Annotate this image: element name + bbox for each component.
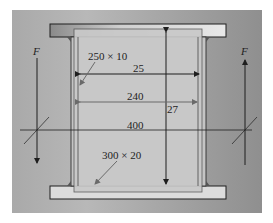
label-dim-400: 400 bbox=[127, 119, 144, 131]
label-300x20: 300 × 20 bbox=[102, 149, 142, 161]
label-dim-25: 25 bbox=[133, 62, 145, 74]
label-250x10: 250 × 10 bbox=[88, 50, 128, 62]
girder-diagram: 250 × 10 25 240 27 400 300 × 20 F F bbox=[0, 0, 273, 223]
label-dim-27: 27 bbox=[167, 103, 179, 115]
label-force-right: F bbox=[240, 45, 248, 57]
label-dim-240: 240 bbox=[127, 90, 144, 102]
label-force-left: F bbox=[32, 45, 40, 57]
